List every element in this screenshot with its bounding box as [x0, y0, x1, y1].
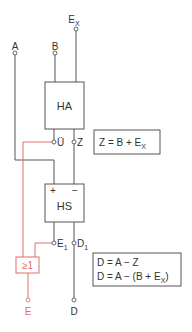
hs-minus-label: − — [72, 185, 78, 196]
terminal-a — [13, 51, 17, 55]
output-e-label: E — [25, 306, 32, 317]
difference-formula-line1: D = A − Z — [97, 257, 139, 268]
terminal-carry — [52, 140, 56, 144]
half-adder-label: HA — [57, 100, 73, 112]
input-a-label: A — [12, 41, 19, 52]
e1-label: E1 — [57, 238, 68, 251]
hs-plus-label: + — [50, 185, 56, 196]
input-b-label: B — [52, 41, 59, 52]
sum-label: Z — [77, 137, 83, 148]
terminal-sum — [72, 140, 76, 144]
terminal-ex — [74, 27, 78, 31]
wire-e1-to-or — [35, 243, 52, 257]
terminal-e1 — [52, 241, 56, 245]
half-subtractor-label: HS — [57, 200, 72, 212]
carry-label: Ü — [57, 137, 64, 148]
subtractor-circuit-diagram: A B EX HA Ü Z Z = B + EX + − HS E1 D1 ≥1… — [0, 0, 192, 332]
terminal-d-out — [72, 298, 76, 302]
output-d-label: D — [70, 306, 77, 317]
input-ex-label: EX — [68, 14, 80, 27]
terminal-e-out — [26, 298, 30, 302]
or-gate-label: ≥1 — [22, 260, 33, 271]
terminal-d1 — [72, 241, 76, 245]
d1-label: D1 — [77, 238, 88, 251]
terminal-b — [53, 51, 57, 55]
